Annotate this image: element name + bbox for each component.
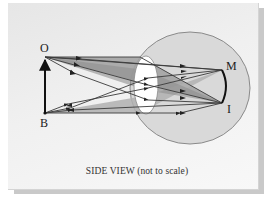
label-i: I (227, 103, 231, 115)
label-b: B (40, 117, 48, 129)
diagram-caption: SIDE VIEW (not to scale) (0, 166, 274, 176)
label-o: O (40, 42, 49, 54)
label-m: M (226, 60, 237, 72)
